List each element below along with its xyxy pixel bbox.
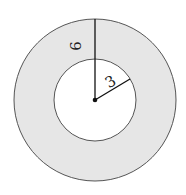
outer-radius-label: 6	[67, 41, 85, 51]
annulus-diagram: 6 3	[0, 0, 186, 195]
center-point	[93, 98, 98, 103]
